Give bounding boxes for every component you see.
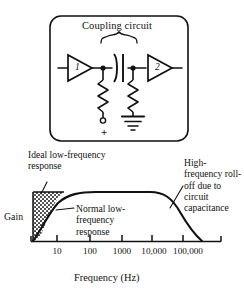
capacitor-icon bbox=[114, 54, 123, 82]
x-tick-label: 10,000 bbox=[141, 246, 166, 256]
resistor-icon bbox=[98, 68, 108, 118]
x-tick-label: 10 bbox=[52, 246, 61, 256]
amplifier-2-label: 2 bbox=[155, 62, 160, 73]
high-frequency-rolloff-annotation: High-frequency roll-off due to circuit c… bbox=[184, 157, 244, 214]
circuit-panel bbox=[50, 16, 188, 141]
open-terminal-circle-icon bbox=[100, 118, 105, 123]
plus-terminal-label: + bbox=[101, 126, 107, 138]
resistor-icon bbox=[128, 68, 138, 116]
x-axis-title: Frequency (Hz) bbox=[74, 272, 140, 284]
y-axis-label: Gain bbox=[4, 212, 23, 223]
normal-response-annotation: Normal low-frequency response bbox=[76, 203, 146, 237]
amplifier-triangle-icon bbox=[148, 55, 172, 81]
coupling-circuit-label: Coupling circuit bbox=[82, 20, 152, 32]
ground-icon bbox=[122, 117, 144, 131]
ideal-response-annotation: Ideal low-frequency response bbox=[28, 149, 114, 172]
x-tick-label: 100,000 bbox=[173, 246, 203, 256]
figure-container: Coupling circuit 1 2 + Ideal low-frequen… bbox=[0, 0, 244, 297]
x-tick-label: 100 bbox=[83, 246, 97, 256]
curly-brace-icon bbox=[101, 32, 137, 43]
x-tick-label: 1000 bbox=[113, 246, 131, 256]
amplifier-1-label: 1 bbox=[75, 62, 80, 73]
amplifier-triangle-icon bbox=[68, 55, 92, 81]
